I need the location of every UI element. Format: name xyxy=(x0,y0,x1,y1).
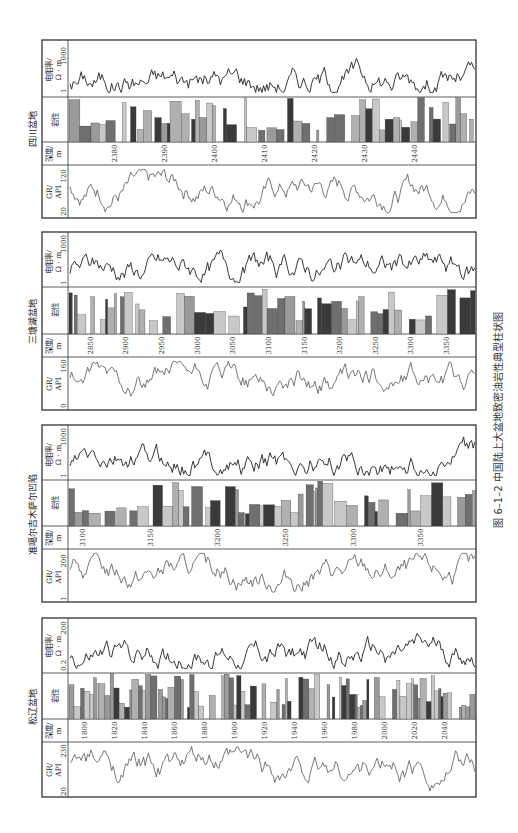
well-log-figure: 四川盆地 电阻率/ Ω · m 1 1000 岩性 深度/ m GR/ API … xyxy=(0,0,518,833)
resistivity-curve xyxy=(70,633,475,668)
svg-text:0: 0 xyxy=(60,404,68,408)
gr-curve xyxy=(70,361,475,396)
depth-tick: 1840 xyxy=(141,722,149,740)
svg-text:1: 1 xyxy=(60,474,68,478)
resistivity-curve xyxy=(70,437,475,476)
depth-tick: 1940 xyxy=(291,722,299,740)
panel-santanghu: 三塘湖盆地 电阻率/ Ω · m 1 1000 岩性 深度/ m GR/ API… xyxy=(27,232,476,410)
depth-tick: 3100 xyxy=(265,337,273,355)
track-label-lithology: 岩性 xyxy=(50,302,60,317)
svg-text:电阻率/: 电阻率/ xyxy=(44,250,54,274)
depth-tick: 3300 xyxy=(407,337,415,355)
svg-text:电阻率/: 电阻率/ xyxy=(44,443,54,467)
svg-text:0.2: 0.2 xyxy=(60,660,68,671)
depth-tick: 3250 xyxy=(282,529,290,547)
svg-text:深度/: 深度/ xyxy=(44,145,54,162)
svg-text:m: m xyxy=(54,342,63,349)
depth-tick: 3050 xyxy=(229,337,237,355)
depth-tick: 3350 xyxy=(417,529,425,547)
gr-curve xyxy=(70,553,475,592)
depth-tick: 1880 xyxy=(201,722,209,740)
svg-text:1: 1 xyxy=(60,281,68,285)
track-label-gr: GR/ API 20 230 xyxy=(45,744,68,796)
track-label-lithology: 岩性 xyxy=(50,688,60,703)
depth-tick: 3300 xyxy=(350,529,358,547)
depth-tick: 3200 xyxy=(336,337,344,355)
panel-title: 三塘湖盆地 xyxy=(27,299,38,344)
svg-text:Ω · m: Ω · m xyxy=(54,252,63,272)
depth-tick: 2900 xyxy=(122,337,130,355)
depth-tick: 3150 xyxy=(147,529,155,547)
svg-text:230: 230 xyxy=(60,744,68,757)
figure-caption: 图 6–1–2 中国陆上大盆地致密油岩性典型柱状图 xyxy=(492,312,504,527)
track-label-resistivity: 电阻率/ Ω · m 1 1000 xyxy=(44,47,68,93)
depth-tick: 1820 xyxy=(111,722,119,740)
panel-sichuan: 四川盆地 电阻率/ Ω · m 1 1000 岩性 深度/ m GR/ API … xyxy=(27,40,476,218)
track-label-depth: 深度/ m xyxy=(44,722,63,739)
lithology-track xyxy=(69,289,475,334)
depth-tick: 3000 xyxy=(194,337,202,355)
svg-text:160: 160 xyxy=(60,359,68,372)
depth-axis: 1800182018401860188019001920194019601980… xyxy=(81,722,450,740)
panel-title: 松辽盆地 xyxy=(27,689,38,725)
depth-tick: 3100 xyxy=(79,529,87,547)
track-label-depth: 深度/ m xyxy=(44,529,63,546)
depth-tick: 2000 xyxy=(381,722,389,740)
svg-text:GR/: GR/ xyxy=(45,569,54,584)
depth-axis: 310031503200325033003350 xyxy=(79,529,425,547)
svg-text:1000: 1000 xyxy=(60,47,68,65)
svg-text:API: API xyxy=(54,377,63,391)
svg-text:GR/: GR/ xyxy=(45,184,54,199)
depth-tick: 1800 xyxy=(81,722,89,740)
track-label-lithology: 岩性 xyxy=(50,495,60,510)
track-label-gr: GR/ API 1 200 xyxy=(45,554,68,601)
svg-text:深度/: 深度/ xyxy=(44,529,54,546)
depth-tick: 2430 xyxy=(361,145,369,163)
panel-title: 四川盆地 xyxy=(27,111,38,147)
gr-curve xyxy=(70,747,475,792)
svg-text:API: API xyxy=(54,763,63,777)
depth-tick: 2950 xyxy=(158,337,166,355)
svg-text:API: API xyxy=(54,570,63,584)
depth-axis: 2380239024002410242024302440 xyxy=(111,145,420,163)
depth-tick: 2420 xyxy=(311,145,319,163)
svg-text:m: m xyxy=(54,727,63,734)
track-label-lithology: 岩性 xyxy=(50,112,60,127)
svg-text:GR/: GR/ xyxy=(45,376,54,391)
panel-junggar: 准噶尔吉木萨尔凹陷 电阻率/ Ω · m 1 1000 岩性 深度/ m GR/… xyxy=(27,425,476,602)
svg-text:1000: 1000 xyxy=(60,235,68,253)
depth-tick: 3150 xyxy=(301,337,309,355)
svg-text:API: API xyxy=(54,185,63,199)
depth-tick: 3200 xyxy=(214,529,222,547)
depth-tick: 3350 xyxy=(443,337,451,355)
svg-text:电阻率/: 电阻率/ xyxy=(44,634,54,658)
depth-tick: 2850 xyxy=(87,337,95,355)
depth-axis: 2850290029503000305031003150320032503300… xyxy=(87,337,451,355)
svg-text:Ω · m: Ω · m xyxy=(54,636,63,656)
svg-text:Ω · m: Ω · m xyxy=(54,445,63,465)
svg-text:m: m xyxy=(54,150,63,157)
svg-text:1: 1 xyxy=(60,89,68,93)
panel-songliao: 松辽盆地 电阻率/ Ω · m 0.2 200 岩性 深度/ m GR/ API… xyxy=(27,618,476,797)
lithology-track xyxy=(69,98,473,142)
depth-tick: 3250 xyxy=(372,337,380,355)
panel-title: 准噶尔吉木萨尔凹陷 xyxy=(27,474,38,555)
track-label-depth: 深度/ m xyxy=(44,337,63,354)
depth-tick: 2380 xyxy=(111,145,119,163)
resistivity-curve xyxy=(70,58,475,92)
svg-text:GR/: GR/ xyxy=(45,762,54,777)
svg-text:200: 200 xyxy=(60,554,68,567)
depth-tick: 2040 xyxy=(441,722,449,740)
track-label-gr: GR/ API 0 160 xyxy=(45,359,68,408)
svg-text:120: 120 xyxy=(60,169,68,182)
svg-text:20: 20 xyxy=(60,207,68,216)
depth-tick: 1920 xyxy=(261,722,269,740)
depth-tick: 2400 xyxy=(211,145,219,163)
lithology-track xyxy=(69,674,475,719)
depth-tick: 2410 xyxy=(261,145,269,163)
depth-tick: 1980 xyxy=(351,722,359,740)
svg-text:电阻率/: 电阻率/ xyxy=(44,58,54,82)
track-label-resistivity: 电阻率/ Ω · m 1 1000 xyxy=(44,428,68,478)
depth-tick: 2440 xyxy=(411,145,419,163)
svg-text:深度/: 深度/ xyxy=(44,722,54,739)
